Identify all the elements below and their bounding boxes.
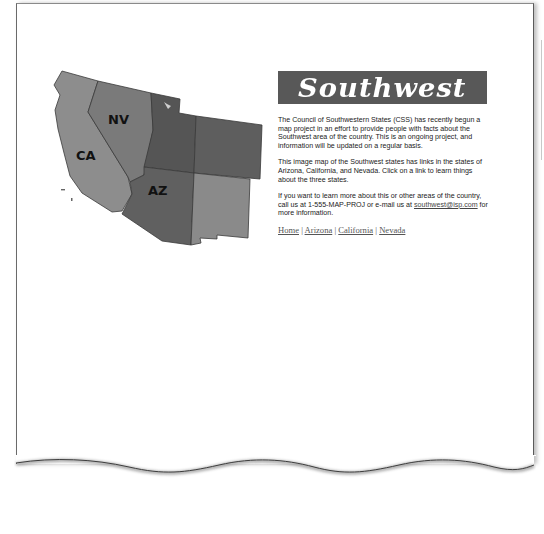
- nav-link-arizona[interactable]: Arizona: [305, 225, 333, 235]
- nav-links: Home | Arizona | California | Nevada: [278, 226, 490, 235]
- main-content: The Council of Southwestern States (CSS)…: [278, 116, 490, 235]
- southwest-map-graphic: [40, 55, 272, 255]
- southwest-banner: Southwest: [278, 71, 487, 104]
- island-shape: [71, 198, 73, 201]
- label-ca[interactable]: CA: [76, 148, 96, 163]
- nav-link-california[interactable]: California: [338, 225, 373, 235]
- intro-paragraph: The Council of Southwestern States (CSS)…: [278, 116, 490, 150]
- window-edge: [541, 40, 542, 160]
- island-shape: [61, 189, 65, 190]
- nav-link-nevada[interactable]: Nevada: [379, 225, 405, 235]
- southwest-image-map: NV CA AZ: [40, 55, 272, 255]
- image-map-paragraph: This image map of the Southwest states h…: [278, 158, 490, 184]
- label-az[interactable]: AZ: [148, 183, 168, 198]
- state-colorado: [194, 116, 262, 179]
- label-nv[interactable]: NV: [108, 112, 129, 127]
- banner-title: Southwest: [298, 73, 467, 103]
- state-new-mexico: [191, 173, 250, 245]
- contact-paragraph: If you want to learn more about this or …: [278, 192, 490, 218]
- torn-page-edge: [14, 455, 536, 495]
- nav-link-home[interactable]: Home: [278, 225, 299, 235]
- email-link[interactable]: southwest@isp.com: [414, 201, 478, 209]
